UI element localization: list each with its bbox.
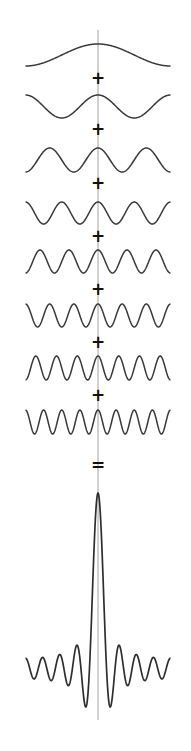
plus-operator: + — [91, 71, 105, 85]
plus-operator: + — [91, 122, 105, 136]
plus-operator: + — [91, 176, 105, 190]
plus-operator: + — [91, 229, 105, 243]
plus-operator: + — [91, 388, 105, 402]
equals-operator: = — [91, 458, 105, 472]
plus-operator: + — [91, 335, 105, 349]
plus-operator: + — [91, 282, 105, 296]
fourier-diagram — [0, 0, 191, 751]
